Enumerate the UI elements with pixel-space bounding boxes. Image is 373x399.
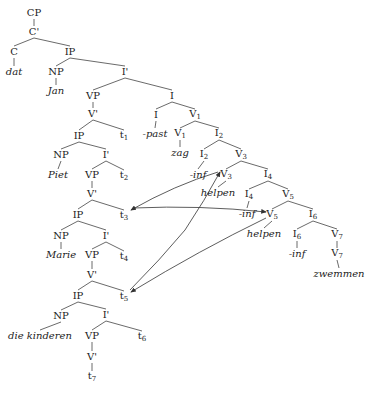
tree-node-v7a: V7 xyxy=(331,229,343,241)
tree-node-t4: t4 xyxy=(120,251,129,263)
tree-edge xyxy=(204,140,219,149)
tree-node-vbar1: V' xyxy=(88,109,98,119)
tree-node-np1: NP xyxy=(48,67,63,77)
tree-node-t7: t7 xyxy=(88,371,97,383)
tree-node-marie: Marie xyxy=(46,250,76,260)
tree-node-inf2: -inf xyxy=(239,209,256,219)
tree-node-i6b: I6 xyxy=(293,229,301,241)
tree-node-i_top: I xyxy=(170,91,174,101)
tree-edge xyxy=(78,200,92,209)
tree-node-i_low: I xyxy=(154,110,158,120)
tree-edge xyxy=(56,58,70,66)
tree-node-i4a: I4 xyxy=(264,169,272,181)
tree-node-i2b: I2 xyxy=(200,149,208,161)
tree-edge xyxy=(78,221,106,230)
tree-edge xyxy=(226,161,241,169)
tree-node-helpen1: helpen xyxy=(201,188,235,198)
tree-node-np3: NP xyxy=(53,231,68,241)
tree-node-ibar2: I' xyxy=(103,150,110,160)
tree-edge xyxy=(40,322,61,330)
tree-node-helpen2: helpen xyxy=(247,229,281,239)
tree-node-i4b: I4 xyxy=(245,189,253,201)
tree-edge xyxy=(125,78,172,90)
tree-node-inf1: -inf xyxy=(190,170,207,180)
tree-node-np4: NP xyxy=(53,311,68,321)
tree-node-ip1: IP xyxy=(65,47,76,57)
tree-edge xyxy=(78,281,92,290)
tree-node-vp4: VP xyxy=(85,331,99,341)
tree-node-ip4: IP xyxy=(73,291,84,301)
tree-edge xyxy=(79,142,106,149)
tree-node-v3a: V3 xyxy=(235,149,247,161)
tree-node-ibar3: I' xyxy=(103,231,110,241)
tree-edge xyxy=(272,201,288,209)
tree-node-jan: Jan xyxy=(48,86,64,96)
tree-node-inf3: -inf xyxy=(289,249,306,259)
tree-edge xyxy=(92,242,106,249)
tree-edge xyxy=(180,121,195,128)
tree-node-t5: t5 xyxy=(120,291,129,303)
tree-node-v7b: V7 xyxy=(331,248,343,260)
tree-node-v5b: V5 xyxy=(266,209,278,221)
tree-node-t2: t2 xyxy=(120,170,129,182)
tree-node-vp1: VP xyxy=(86,91,100,101)
tree-node-v3b: V3 xyxy=(220,169,232,181)
tree-edge xyxy=(156,102,172,109)
tree-edge xyxy=(249,181,268,189)
tree-node-vp3: VP xyxy=(85,250,99,260)
tree-node-dat: dat xyxy=(6,67,22,77)
tree-node-ibar4: I' xyxy=(103,310,110,320)
movement-arrow-v5b-to-t5 xyxy=(131,218,266,292)
syntax-tree-diagram: CPC'CIPdatNPI'JanVPIV'IV1IPt1-pastV1I2NP… xyxy=(0,0,373,399)
tree-node-piet: Piet xyxy=(48,170,68,180)
tree-edge xyxy=(92,321,106,330)
tree-edge xyxy=(297,221,313,229)
tree-node-cp: CP xyxy=(27,8,41,18)
tree-node-ip2: IP xyxy=(74,131,85,141)
tree-node-t3: t3 xyxy=(120,210,129,222)
tree-node-kinderen: die kinderen xyxy=(8,331,72,341)
tree-edge xyxy=(247,201,249,208)
tree-edge xyxy=(14,38,34,46)
tree-node-vp2: VP xyxy=(85,170,99,180)
tree-node-vbar3: V' xyxy=(87,270,97,280)
tree-node-ibar1: I' xyxy=(122,67,129,77)
tree-node-t1: t1 xyxy=(120,130,129,142)
tree-edge xyxy=(34,38,70,46)
tree-node-t6: t6 xyxy=(138,331,147,343)
tree-edge xyxy=(61,302,78,310)
tree-edge xyxy=(61,221,78,230)
tree-node-v1a: V1 xyxy=(189,109,201,121)
tree-edge xyxy=(58,161,61,169)
tree-node-c: C xyxy=(10,47,18,57)
tree-node-zag: zag xyxy=(171,148,189,158)
tree-edge xyxy=(337,260,339,268)
tree-edge xyxy=(79,120,93,130)
tree-edge xyxy=(70,58,125,66)
tree-node-cbar: C' xyxy=(29,27,39,37)
tree-node-v5a: V5 xyxy=(282,189,294,201)
tree-node-past: -past xyxy=(143,129,168,139)
tree-edge xyxy=(106,321,142,331)
tree-node-vbar2: V' xyxy=(87,189,97,199)
tree-edge xyxy=(155,121,156,128)
tree-node-v1b: V1 xyxy=(174,128,186,140)
tree-edge xyxy=(61,142,79,149)
tree-node-i6a: I6 xyxy=(309,209,317,221)
tree-edge xyxy=(198,161,204,169)
tree-node-np2: NP xyxy=(53,150,68,160)
tree-node-vbar4: V' xyxy=(87,352,97,362)
tree-edge xyxy=(264,221,272,228)
tree-edge xyxy=(92,161,106,169)
tree-edge xyxy=(78,302,106,309)
tree-node-i2a: I2 xyxy=(215,128,223,140)
tree-node-zwemmen: zwemmen xyxy=(313,269,364,279)
tree-edge xyxy=(93,78,125,90)
tree-node-ip3: IP xyxy=(73,210,84,220)
